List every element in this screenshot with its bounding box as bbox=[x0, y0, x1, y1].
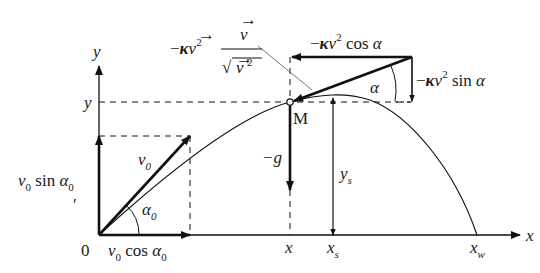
svg-text:2: 2 bbox=[247, 56, 253, 68]
alpha0-label: α0 bbox=[142, 200, 157, 222]
trajectory-diagram: y x 0 y x xs xw M −g ys v0 α0 v0 sin α0 … bbox=[0, 0, 540, 273]
drag-sin-label: −κv2 sin α bbox=[416, 68, 486, 90]
x-axis-label: x bbox=[525, 226, 534, 245]
svg-text:→: → bbox=[240, 10, 257, 29]
x-tick-label: x bbox=[284, 238, 293, 257]
drag-cos-label: −κv2 cos α bbox=[310, 31, 383, 53]
y-axis-label: y bbox=[91, 42, 101, 61]
gravity-label: −g bbox=[262, 148, 282, 167]
v0-sin-label: v0 sin α0 bbox=[18, 171, 74, 193]
tangent-line bbox=[258, 46, 312, 90]
drag-vector-formula: −κv2 → v → √ v → 2 bbox=[170, 10, 262, 77]
alpha-arc bbox=[391, 66, 396, 101]
xs-tick-label: xs bbox=[326, 238, 339, 260]
stray-mark: ʹ bbox=[73, 195, 77, 214]
alpha-label: α bbox=[370, 78, 380, 97]
v0-label: v0 bbox=[138, 150, 152, 172]
origin-label: 0 bbox=[81, 241, 90, 260]
point-m-label: M bbox=[293, 109, 308, 128]
svg-text:√: √ bbox=[222, 58, 232, 77]
svg-text:−κv2: −κv2 bbox=[170, 36, 202, 58]
v0-cos-label: v0 cos α0 bbox=[108, 241, 167, 263]
ys-label: ys bbox=[338, 164, 352, 186]
drag-vector bbox=[294, 57, 412, 101]
y-tick-label: y bbox=[82, 93, 92, 112]
xw-tick-label: xw bbox=[469, 238, 486, 260]
svg-text:→: → bbox=[198, 25, 215, 44]
point-m bbox=[287, 99, 293, 105]
